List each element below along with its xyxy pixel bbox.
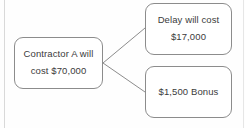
diagram-canvas: Contractor A will cost $70,000 Delay wil…: [0, 0, 245, 128]
delay-cost-node-line-2: $17,000: [171, 29, 206, 46]
delay-cost-node-line-1: Delay will cost: [158, 12, 220, 29]
connector-contractor-to-delay: [103, 28, 145, 63]
contractor-node[interactable]: Contractor A will cost $70,000: [14, 37, 103, 89]
contractor-node-line-1: Contractor A will: [24, 46, 94, 63]
contractor-node-line-2: cost $70,000: [31, 63, 87, 80]
delay-cost-node[interactable]: Delay will cost $17,000: [145, 3, 232, 55]
connector-contractor-to-bonus: [103, 63, 145, 92]
bonus-node-line-1: $1,500 Bonus: [159, 84, 219, 101]
bonus-node[interactable]: $1,500 Bonus: [145, 66, 232, 118]
